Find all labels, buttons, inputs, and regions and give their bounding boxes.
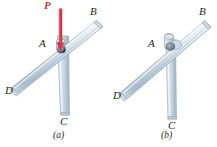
caption-panel-b: (b) — [161, 130, 172, 140]
point-label-a-panel-b: A — [148, 38, 155, 49]
panel-a — [9, 9, 103, 116]
figure-canvas — [0, 0, 217, 147]
panel-b — [118, 21, 211, 119]
point-label-b-panel-a: B — [90, 6, 97, 17]
figure-root: P A B C D (a) A B C D (b) — [0, 0, 217, 147]
point-label-c-panel-a: C — [60, 116, 67, 127]
panel-b-pin — [166, 43, 175, 51]
point-label-d-panel-b: D — [113, 90, 121, 101]
caption-panel-a: (a) — [53, 130, 64, 140]
panel-b-bar-db — [118, 21, 211, 101]
point-label-b-panel-b: B — [199, 6, 206, 17]
point-label-a-panel-a: A — [39, 38, 46, 49]
panel-a-bar-db — [9, 21, 103, 97]
point-label-d-panel-a: D — [5, 85, 13, 96]
force-label-p-a: P — [44, 0, 51, 11]
panel-a-force-arrow — [56, 9, 64, 52]
